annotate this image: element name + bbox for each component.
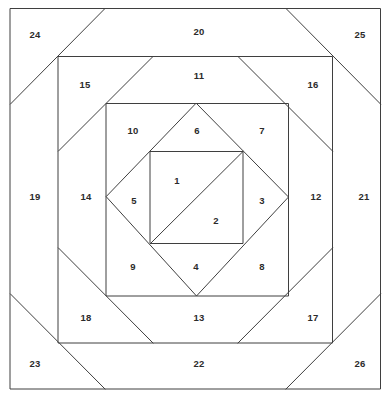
piece-number-4: 4: [193, 261, 198, 272]
piece-number-6: 6: [194, 125, 199, 136]
piece-number-10: 10: [128, 125, 139, 136]
piece-number-19: 19: [30, 191, 41, 202]
piece-number-26: 26: [355, 358, 366, 369]
ring2-square-border: [59, 57, 333, 344]
piece-number-14: 14: [81, 191, 92, 202]
piece-number-24: 24: [30, 29, 41, 40]
piece-number-17: 17: [308, 312, 319, 323]
piece-number-13: 13: [194, 312, 205, 323]
piece-number-18: 18: [81, 312, 92, 323]
piece-number-9: 9: [130, 261, 135, 272]
piece-number-5: 5: [131, 195, 136, 206]
footer-caption: [10, 394, 70, 403]
piece-number-22: 22: [194, 358, 205, 369]
piece-number-1: 1: [174, 175, 179, 186]
center-square-diagonal: [151, 152, 244, 244]
piece-number-23: 23: [30, 358, 41, 369]
piece-number-11: 11: [194, 70, 204, 81]
piece-number-3: 3: [259, 195, 264, 206]
piece-number-25: 25: [355, 29, 366, 40]
piece-number-20: 20: [194, 26, 205, 37]
piece-number-2: 2: [213, 215, 218, 226]
piece-number-21: 21: [359, 191, 370, 202]
piece-number-7: 7: [259, 125, 264, 136]
piece-number-15: 15: [80, 79, 91, 90]
outer-corner-diagonal-bottom-right: [286, 294, 381, 389]
piece-number-16: 16: [308, 79, 319, 90]
piecing-diagram: 1234567891011121314151617181920212223242…: [0, 0, 389, 403]
piece-number-12: 12: [311, 191, 322, 202]
piece-number-8: 8: [259, 261, 264, 272]
outer-corner-diagonal-bottom-left: [11, 294, 106, 389]
quilt-block-drawing: [0, 0, 389, 403]
